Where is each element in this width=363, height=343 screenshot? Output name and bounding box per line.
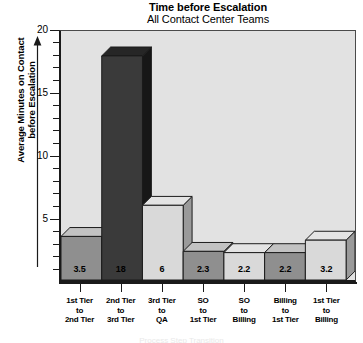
y-axis-tick-label: 10	[24, 151, 48, 161]
x-axis-tick	[162, 284, 163, 292]
x-axis-tick	[121, 284, 122, 292]
y-axis-major-tick	[50, 219, 59, 220]
chart-container: Time before Escalation All Contact Cente…	[0, 0, 363, 343]
chart-title: Time before Escalation	[58, 1, 358, 13]
bar-value-label: 2.2	[224, 264, 264, 274]
y-axis-major-tick	[50, 30, 59, 31]
bar-series	[61, 31, 355, 280]
plot-area	[59, 30, 356, 282]
bar-value-label: 2.3	[183, 264, 223, 274]
x-axis-tick	[244, 284, 245, 292]
x-axis-tick	[326, 284, 327, 292]
y-axis-tick-label: 15	[24, 88, 48, 98]
chart-title-block: Time before Escalation All Contact Cente…	[58, 1, 358, 26]
x-axis-line	[59, 282, 357, 284]
x-axis-tick-label-line: to	[302, 306, 350, 316]
bar-value-label: 6	[142, 264, 182, 274]
bar-value-label: 3.5	[60, 264, 100, 274]
y-axis-tick-label: 5	[24, 214, 48, 224]
x-axis-tick-label-line: 1st Tier	[302, 296, 350, 306]
x-axis-tick-label-line: Billing	[302, 315, 350, 325]
bar-value-label: 2.2	[265, 264, 305, 274]
bar-value-label: 3.2	[306, 264, 346, 274]
x-axis-title-cutoff: Process Step Transition	[0, 336, 363, 343]
chart-subtitle: All Contact Center Teams	[58, 13, 358, 26]
x-axis-tick	[203, 284, 204, 292]
y-axis-major-tick	[50, 93, 59, 94]
x-axis-tick	[285, 284, 286, 292]
y-axis-tick-label: 20	[24, 25, 48, 35]
x-axis-tick	[80, 284, 81, 292]
bar-value-label: 18	[101, 264, 141, 274]
y-axis-major-tick	[50, 156, 59, 157]
x-axis-tick-label: 1st TiertoBilling	[302, 296, 350, 325]
y-axis-tick-labels: 2015105	[24, 0, 48, 343]
